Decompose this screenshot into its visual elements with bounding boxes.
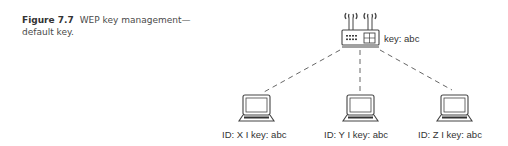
laptop-icon — [437, 95, 472, 121]
client-z-label: ID: Z I key: abc — [418, 129, 482, 140]
access-point-key-label: key: abc — [384, 33, 419, 44]
link-to-client-z — [380, 50, 452, 90]
laptop-icon — [343, 95, 378, 121]
client-y-label: ID: Y I key: abc — [324, 129, 388, 140]
dashed-links — [264, 50, 452, 92]
laptop-icon — [239, 95, 274, 121]
wireless-router-icon — [342, 13, 379, 47]
client-x-label: ID: X I key: abc — [222, 129, 286, 140]
link-to-client-x — [264, 50, 340, 92]
network-diagram — [0, 0, 508, 146]
